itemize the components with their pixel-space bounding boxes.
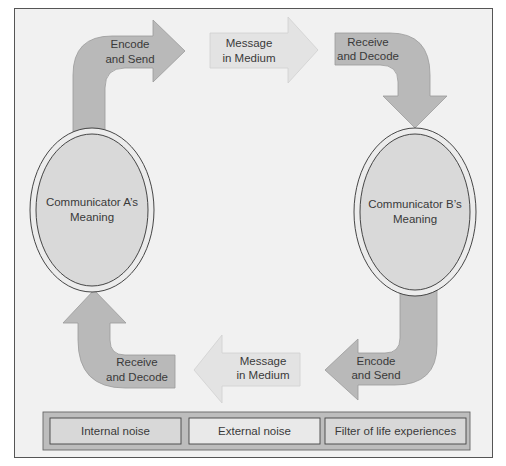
- communication-model-diagram: Encode and Send Message in Medium Receiv…: [0, 0, 506, 466]
- noise-item-internal: Internal noise: [81, 425, 150, 437]
- noise-bar: Internal noise External noise Filter of …: [43, 412, 470, 450]
- communicator-b-inner: [360, 134, 470, 290]
- noise-item-external: External noise: [218, 425, 291, 437]
- arrow-b-receive-decode-label-line1: Receive: [347, 36, 389, 48]
- communicator-a-inner: [36, 134, 148, 286]
- communicator-a-label-line2: Meaning: [70, 211, 114, 223]
- communicator-a-label-line1: Communicator A’s: [46, 196, 138, 208]
- arrow-top-message-label-line1: Message: [226, 37, 273, 49]
- communicator-a: Communicator A’s Meaning: [30, 128, 154, 292]
- arrow-a-encode-send-label-line2: and Send: [105, 53, 154, 65]
- noise-item-filter: Filter of life experiences: [335, 425, 457, 437]
- arrow-b-receive-decode-label-line2: and Decode: [337, 50, 399, 62]
- communicator-b-label-line2: Meaning: [393, 213, 437, 225]
- arrow-top-message-label-line2: in Medium: [222, 52, 275, 64]
- arrow-bottom-message-label-line2: in Medium: [236, 369, 289, 381]
- arrow-a-receive-decode-label-line2: and Decode: [106, 371, 168, 383]
- arrow-a-encode-send-label-line1: Encode: [110, 38, 149, 50]
- arrow-b-encode-send-label-line1: Encode: [356, 355, 395, 367]
- arrow-b-encode-send-label-line2: and Send: [351, 369, 400, 381]
- arrow-bottom-message-label-line1: Message: [240, 355, 287, 367]
- communicator-b-label-line1: Communicator B’s: [368, 198, 462, 210]
- arrow-a-receive-decode-label-line1: Receive: [116, 356, 158, 368]
- communicator-b: Communicator B’s Meaning: [354, 128, 476, 296]
